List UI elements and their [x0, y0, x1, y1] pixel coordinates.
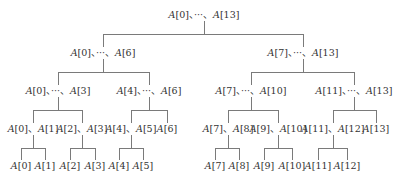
tree-node-l2c: A[7]、···、A[10] [216, 86, 287, 96]
tree-node-leaf0: A[0] [11, 161, 31, 171]
tree-node-leaf3: A[3] [85, 161, 105, 171]
tree-node-l3d: A[6] [157, 124, 177, 134]
tree-node-leaf7: A[7] [205, 161, 225, 171]
tree-node-leaf8: A[8] [229, 161, 249, 171]
tree-node-leaf11: A[11] [305, 161, 331, 171]
tree-node-l3b: A[2]、A[3] [57, 124, 108, 134]
tree-node-l1a: A[0]、···、A[6] [71, 48, 136, 58]
tree-node-l2d: A[11]、···、A[13] [316, 86, 393, 96]
tree-node-leaf12: A[12] [334, 161, 360, 171]
tree-node-l3h: A[13] [363, 124, 389, 134]
tree-node-l3a: A[0]、A[1] [8, 124, 59, 134]
tree-node-l3e: A[7]、A[8] [203, 124, 254, 134]
tree-node-l3g: A[11]、A[12] [302, 124, 365, 134]
tree-node-l2a: A[0]、···、A[3] [26, 86, 91, 96]
tree-node-leaf5: A[5] [133, 161, 153, 171]
tree-node-l3c: A[4]、A[5] [106, 124, 157, 134]
tree-node-leaf4: A[4] [109, 161, 129, 171]
tree-node-root: A[0]、···、A[13] [169, 10, 240, 20]
tree-node-l1b: A[7]、···、A[13] [268, 48, 339, 58]
tree-node-l3f: A[9]、A[10] [250, 124, 307, 134]
tree-diagram: A[0]、···、A[13]A[0]、···、A[6]A[7]、···、A[13… [0, 0, 397, 183]
tree-node-leaf9: A[9] [254, 161, 274, 171]
tree-node-leaf2: A[2] [60, 161, 80, 171]
tree-node-l2b: A[4]、···、A[6] [117, 86, 182, 96]
tree-node-leaf1: A[1] [35, 161, 55, 171]
tree-node-leaf10: A[10] [279, 161, 305, 171]
